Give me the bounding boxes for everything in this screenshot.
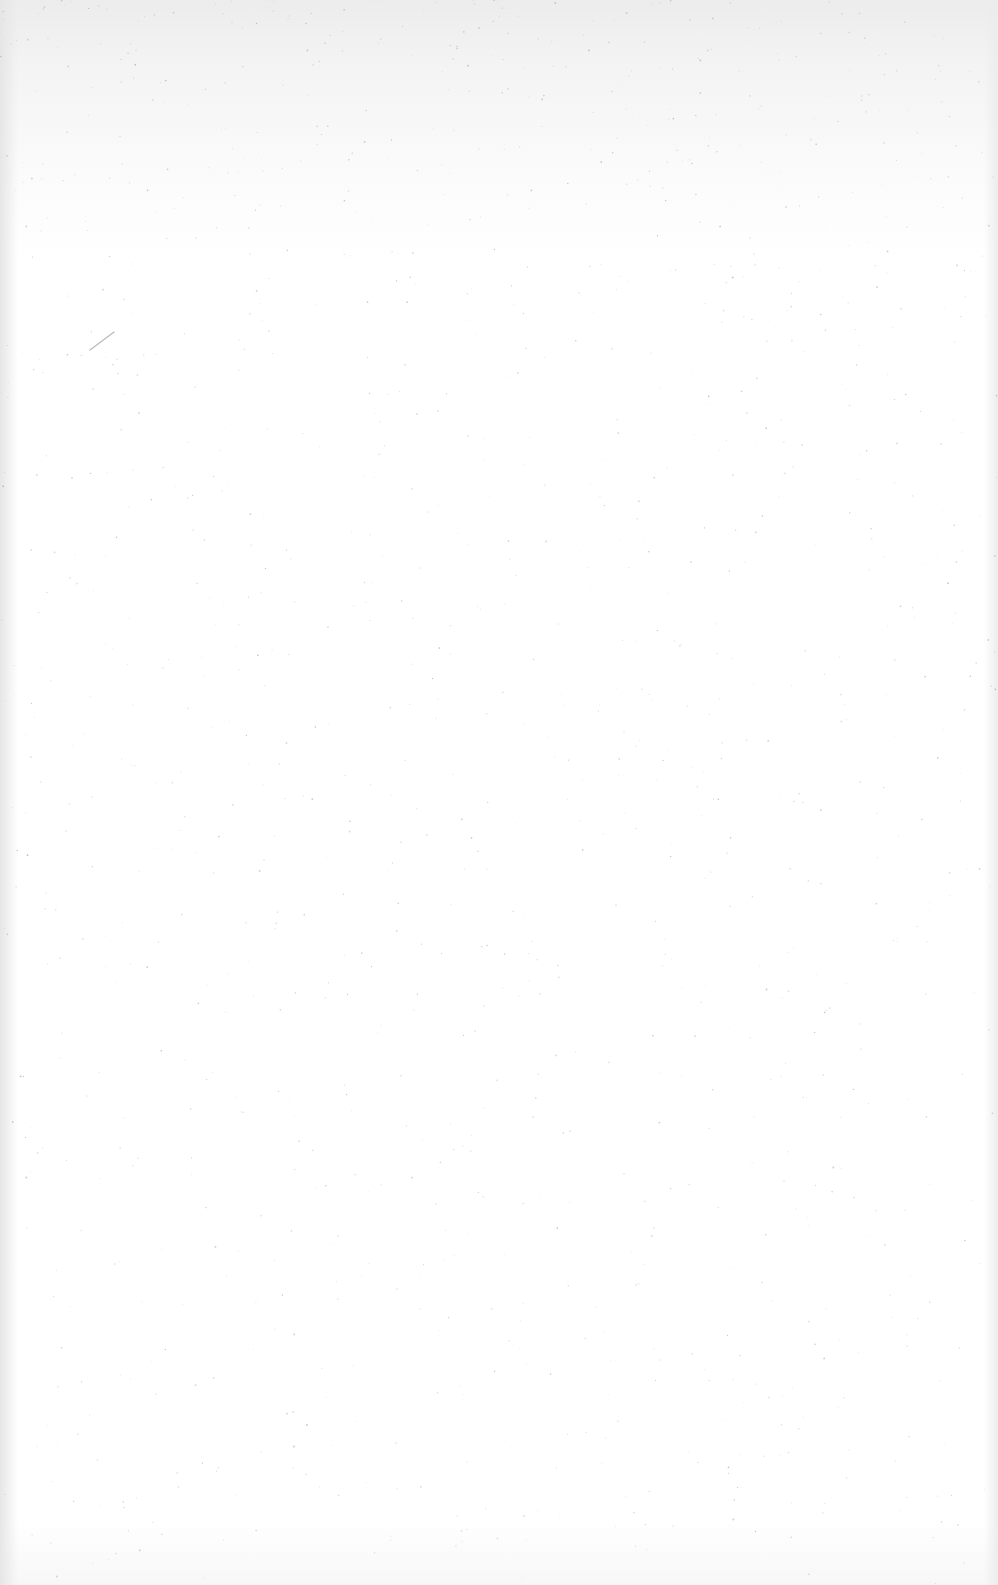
scan-noise-speckles xyxy=(0,0,998,1585)
scanned-page xyxy=(0,0,998,1585)
pencil-stroke-mark xyxy=(88,330,116,352)
